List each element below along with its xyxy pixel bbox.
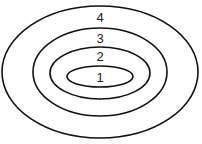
layer-label-2: 2 [96, 49, 103, 64]
layer-label-4: 4 [96, 10, 103, 25]
layer-label-3: 3 [96, 31, 103, 46]
nested-ellipses-diagram: 4 3 2 1 [0, 0, 202, 144]
layer-label-1: 1 [96, 70, 103, 85]
